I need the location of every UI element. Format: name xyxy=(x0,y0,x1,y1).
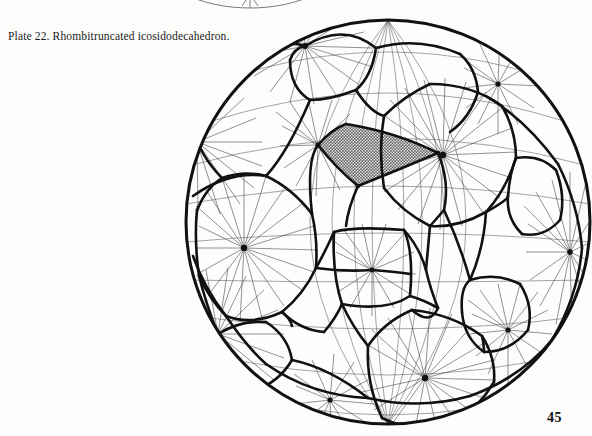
page-canvas: Plate 22. Rhombitruncated icosidodecahed… xyxy=(0,0,592,436)
fine-mesh xyxy=(160,8,592,436)
plate-figure xyxy=(0,0,592,436)
page-number: 45 xyxy=(547,410,562,426)
